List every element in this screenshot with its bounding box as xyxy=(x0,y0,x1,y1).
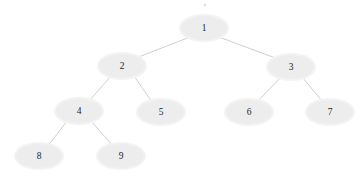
tree-canvas: 123456789 xyxy=(0,0,363,181)
tree-node-7[interactable]: 7 xyxy=(305,98,355,126)
node-label-7: 7 xyxy=(328,107,333,117)
tree-node-6[interactable]: 6 xyxy=(224,98,274,126)
scan-artifacts-group xyxy=(204,4,206,6)
node-label-4: 4 xyxy=(77,106,82,116)
node-label-8: 8 xyxy=(37,151,42,161)
tree-node-8[interactable]: 8 xyxy=(14,142,64,170)
tree-node-5[interactable]: 5 xyxy=(136,98,186,126)
tree-nodes-group: 123456789 xyxy=(14,14,355,170)
tree-edge-n4-n8 xyxy=(48,121,67,146)
speck-artifact xyxy=(204,4,206,6)
tree-edge-n3-n7 xyxy=(302,77,323,102)
tree-edges-group xyxy=(48,37,323,146)
tree-node-9[interactable]: 9 xyxy=(96,142,146,170)
tree-edge-n3-n6 xyxy=(257,77,281,102)
tree-edge-n2-n4 xyxy=(89,76,111,101)
tree-node-1[interactable]: 1 xyxy=(179,14,229,42)
tree-edge-n1-n3 xyxy=(219,37,278,59)
tree-edge-n2-n5 xyxy=(134,76,152,102)
node-label-1: 1 xyxy=(202,23,207,33)
node-label-3: 3 xyxy=(289,62,294,72)
tree-edge-n4-n9 xyxy=(91,121,113,146)
node-label-6: 6 xyxy=(247,107,252,117)
node-label-2: 2 xyxy=(120,61,125,71)
tree-node-4[interactable]: 4 xyxy=(54,97,104,125)
node-label-5: 5 xyxy=(159,107,164,117)
tree-node-2[interactable]: 2 xyxy=(97,52,147,80)
node-label-9: 9 xyxy=(119,151,124,161)
tree-edge-n1-n2 xyxy=(136,37,190,58)
binary-tree-diagram: 123456789 xyxy=(0,0,363,181)
tree-node-3[interactable]: 3 xyxy=(266,53,316,81)
